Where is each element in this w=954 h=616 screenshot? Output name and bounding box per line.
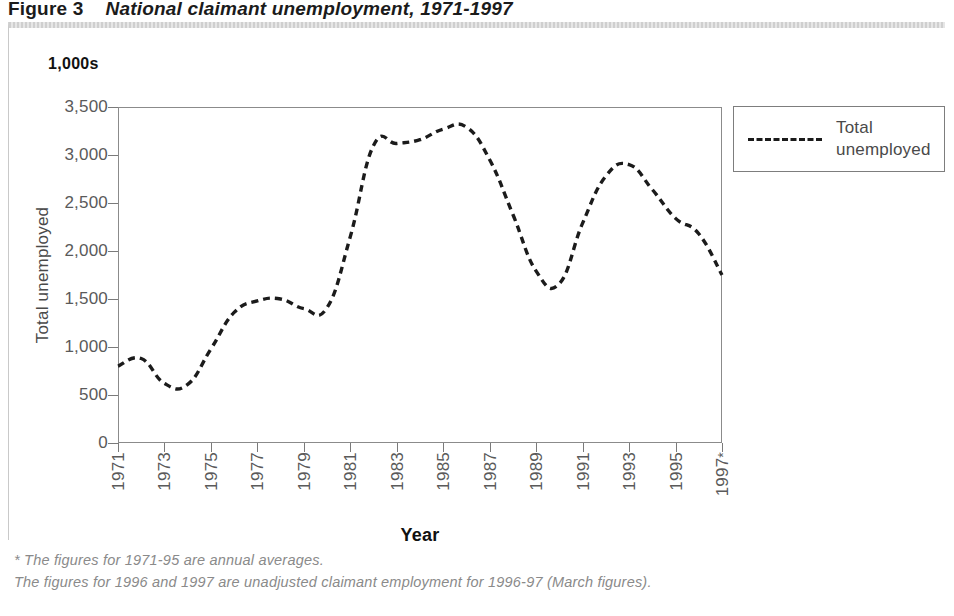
legend[interactable]: Total unemployed: [733, 106, 945, 172]
chart-area: 1,000s Total unemployed 3,5003,0002,5002…: [0, 0, 954, 616]
series-line-total-unemployed: [118, 124, 722, 389]
legend-swatch-total-unemployed: [748, 138, 822, 141]
figure-root: Figure 3 National claimant unemployment,…: [0, 0, 954, 616]
legend-label-total-unemployed: Total unemployed: [836, 117, 932, 161]
x-axis-title: Year: [118, 525, 722, 546]
footnotes: * The figures for 1971-95 are annual ave…: [14, 549, 914, 594]
footnote-2: The figures for 1996 and 1997 are unadju…: [14, 571, 914, 593]
footnote-1: * The figures for 1971-95 are annual ave…: [14, 549, 914, 571]
series-layer: [0, 0, 954, 616]
